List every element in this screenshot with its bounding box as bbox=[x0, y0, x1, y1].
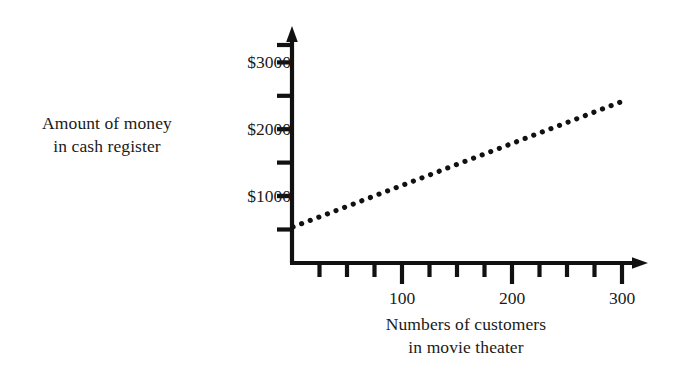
x-axis-ticks bbox=[320, 263, 623, 284]
data-series-line bbox=[293, 100, 626, 227]
x-axis-arrowhead bbox=[632, 257, 648, 269]
y-axis-title: Amount of money in cash register bbox=[8, 112, 206, 158]
x-axis-title: Numbers of customers in movie theater bbox=[345, 313, 587, 359]
y-tick-label-2000: $2000 bbox=[203, 121, 291, 139]
x-tick-label-200: 200 bbox=[477, 290, 547, 308]
y-tick-label-3000: $3000 bbox=[203, 54, 291, 72]
y-tick-label-1000: $1000 bbox=[203, 188, 291, 206]
y-axis-title-line-2: in cash register bbox=[8, 135, 206, 158]
y-axis-title-line-1: Amount of money bbox=[8, 112, 206, 135]
x-axis-title-line-2: in movie theater bbox=[345, 336, 587, 359]
x-axis-title-line-1: Numbers of customers bbox=[345, 313, 587, 336]
chart-figure: $1000 $2000 $3000 100 200 300 Amount of … bbox=[0, 0, 674, 389]
x-tick-label-100: 100 bbox=[367, 290, 437, 308]
y-axis-arrowhead bbox=[286, 26, 298, 42]
x-tick-label-300: 300 bbox=[587, 290, 657, 308]
